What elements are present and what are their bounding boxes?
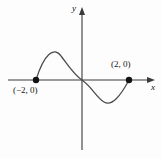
x-axis-label: x bbox=[151, 83, 155, 92]
y-axis-arrowhead-icon bbox=[79, 7, 85, 15]
point-label-right-root: (2, 0) bbox=[111, 60, 131, 69]
coordinate-plane-canvas bbox=[0, 0, 162, 159]
data-point-left-root bbox=[33, 77, 39, 83]
graph-figure: y x (−2, 0) (2, 0) bbox=[0, 0, 162, 159]
data-point-right-root bbox=[126, 77, 132, 83]
y-axis-label: y bbox=[72, 4, 76, 13]
point-label-left-root: (−2, 0) bbox=[13, 86, 38, 95]
